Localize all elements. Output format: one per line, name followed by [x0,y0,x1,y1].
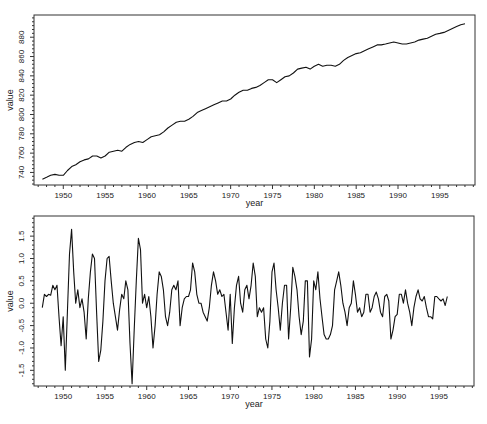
plot-frame [34,15,475,185]
y-tick-label: 0.5 [17,275,26,287]
x-tick-label: 1980 [305,392,323,401]
x-tick-label: 1990 [388,392,406,401]
y-tick-label: -1.0 [17,341,26,355]
panel-2: 1950195519601965197019751980198519901995… [5,216,474,409]
y-tick-label: -1.5 [17,363,26,377]
y-tick-label: 740 [17,165,26,179]
y-tick-label: 800 [17,107,26,121]
x-tick-label: 1970 [222,191,240,200]
y-tick-label: 840 [17,69,26,83]
x-tick-label: 1975 [264,191,282,200]
x-tick-label: 1960 [138,392,156,401]
y-axis: 740760780800820840860880value [5,18,34,184]
x-tick-label: 1985 [347,392,365,401]
chart-figure: 1950195519601965197019751980198519901995… [0,0,487,424]
y-tick-label: 820 [17,88,26,102]
y-tick-label: 0.0 [17,297,26,309]
y-tick-label: 1.5 [17,230,26,242]
plot-frame [34,216,474,386]
x-axis: 1950195519601965197019751980198519901995… [38,185,473,208]
x-tick-label: 1985 [347,191,365,200]
y-tick-label: -0.5 [17,318,26,332]
panel-1: 1950195519601965197019751980198519901995… [5,15,475,208]
y-axis-label: value [5,290,15,312]
chart-canvas: 1950195519601965197019751980198519901995… [0,0,487,424]
y-tick-label: 760 [17,146,26,160]
x-tick-label: 1995 [431,191,449,200]
x-tick-label: 1995 [430,392,448,401]
series-line [42,24,465,180]
x-tick-label: 1980 [305,191,323,200]
y-tick-label: 860 [17,49,26,63]
y-tick-label: 780 [17,127,26,141]
x-tick-label: 1965 [180,191,198,200]
x-tick-label: 1960 [138,191,156,200]
x-tick-label: 1950 [54,191,72,200]
y-tick-label: 880 [17,30,26,44]
x-tick-label: 1950 [54,392,72,401]
x-axis-label: year [245,399,263,409]
y-axis: -1.5-1.0-0.50.00.51.01.5value [5,218,34,384]
x-tick-label: 1990 [389,191,407,200]
x-tick-label: 1975 [263,392,281,401]
y-tick-label: 1.0 [17,252,26,264]
x-tick-label: 1970 [221,392,239,401]
series-line [42,229,447,383]
x-tick-label: 1955 [96,191,114,200]
x-axis-label: year [246,198,264,208]
y-axis-label: value [5,89,15,111]
x-tick-label: 1965 [180,392,198,401]
x-tick-label: 1955 [96,392,114,401]
x-axis: 1950195519601965197019751980198519901995… [38,386,472,409]
